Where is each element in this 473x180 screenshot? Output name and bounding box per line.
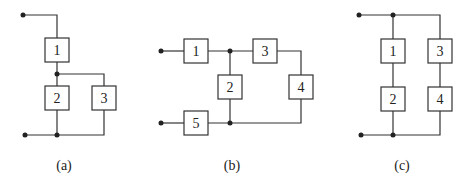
diagram-c-wires <box>357 13 441 138</box>
diagram-a: 1 2 3 (a) <box>45 38 116 174</box>
terminal-dot <box>159 49 164 54</box>
block-b-1: 1 <box>184 39 208 63</box>
terminal-dot <box>21 13 26 18</box>
junction-dot <box>55 72 60 77</box>
caption-b: (b) <box>224 158 241 174</box>
junction-dot <box>228 121 233 126</box>
block-label: 2 <box>390 92 397 107</box>
block-a-2: 2 <box>45 86 69 110</box>
block-b-4: 4 <box>289 75 313 99</box>
block-label: 2 <box>54 91 61 106</box>
block-label: 3 <box>262 44 269 59</box>
junction-dot <box>391 13 396 18</box>
terminal-dot <box>357 13 362 18</box>
block-label: 3 <box>437 44 444 59</box>
block-label: 1 <box>193 44 200 59</box>
junction-dot <box>228 49 233 54</box>
block-b-2: 2 <box>218 75 242 99</box>
block-a-1: 1 <box>45 38 69 62</box>
block-label: 5 <box>193 116 200 131</box>
junction-dot <box>391 133 396 138</box>
block-label: 2 <box>227 80 234 95</box>
diagram-svg: 1 2 3 (a) 1 2 3 4 5 <box>0 0 473 180</box>
diagram-c: 1 2 3 4 (c) <box>381 39 452 174</box>
reliability-block-diagrams: 1 2 3 (a) 1 2 3 4 5 <box>0 0 473 180</box>
block-label: 4 <box>437 92 444 107</box>
block-c-4: 4 <box>428 87 452 111</box>
diagram-b: 1 2 3 4 5 (b) <box>184 39 313 174</box>
block-b-3: 3 <box>253 39 277 63</box>
block-c-2: 2 <box>381 87 405 111</box>
block-label: 3 <box>101 91 108 106</box>
block-a-3: 3 <box>92 86 116 110</box>
junction-dot <box>55 133 60 138</box>
block-label: 4 <box>298 80 305 95</box>
block-label: 1 <box>54 43 61 58</box>
block-label: 1 <box>390 44 397 59</box>
caption-a: (a) <box>56 158 72 174</box>
caption-c: (c) <box>394 158 410 174</box>
diagram-a-wires <box>21 13 105 138</box>
terminal-dot <box>23 133 28 138</box>
terminal-dot <box>159 121 164 126</box>
block-c-3: 3 <box>428 39 452 63</box>
block-c-1: 1 <box>381 39 405 63</box>
block-b-5: 5 <box>184 111 208 135</box>
terminal-dot <box>359 133 364 138</box>
